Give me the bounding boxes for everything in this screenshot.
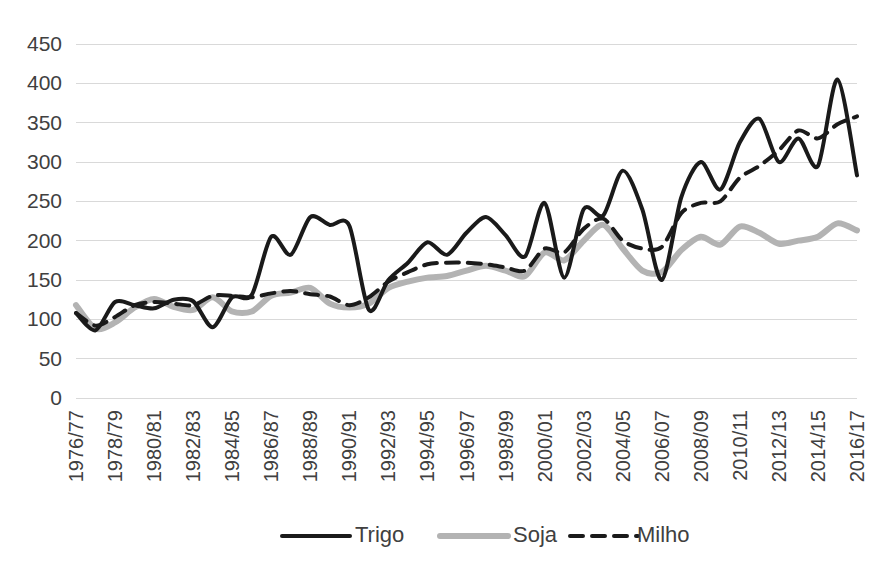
x-axis-tick-label: 2010/11 [729,410,751,481]
x-axis-tick-label: 2006/07 [651,410,673,482]
chart-canvas: 050100150200250300350400450 1976/771978/… [0,0,873,572]
y-axis-tick-label: 0 [50,386,62,409]
x-axis-tick-label: 2004/05 [612,410,634,482]
y-axis-tick-label: 200 [27,229,62,252]
x-axis-tick-label: 1976/77 [65,410,87,482]
legend-label-trigo[interactable]: Trigo [355,522,404,547]
y-axis-tick-label: 250 [27,189,62,212]
y-axis-tick-label: 400 [27,71,62,94]
series-line-milho [76,116,857,325]
x-axis-tick-label: 1996/97 [456,410,478,482]
y-axis-tick-labels: 050100150200250300350400450 [27,32,62,409]
x-axis-tick-label: 1990/91 [338,410,360,482]
x-axis-tick-label: 2014/15 [807,410,829,482]
series-line-soja [76,223,857,329]
x-axis-tick-label: 1986/87 [260,410,282,482]
legend-label-soja[interactable]: Soja [513,522,558,547]
x-axis-tick-label: 2002/03 [573,410,595,482]
x-axis-tick-label: 1998/99 [495,410,517,482]
y-axis-tick-label: 100 [27,307,62,330]
x-axis-tick-label: 2008/09 [690,410,712,482]
line-chart: 050100150200250300350400450 1976/771978/… [0,0,873,572]
x-axis-tick-label: 1992/93 [377,410,399,482]
x-axis-tick-label: 1984/85 [221,410,243,482]
x-axis-tick-label: 2000/01 [534,410,556,482]
gridlines-group [76,44,857,398]
chart-legend: TrigoSojaMilho [282,522,690,547]
x-axis-tick-label: 1978/79 [104,410,126,482]
x-axis-tick-label: 2016/17 [846,410,868,482]
y-axis-tick-label: 450 [27,32,62,55]
series-group [76,79,857,330]
legend-label-milho[interactable]: Milho [637,522,690,547]
x-axis-tick-label: 1982/83 [182,410,204,482]
x-axis-tick-labels: 1976/771978/791980/811982/831984/851986/… [65,410,868,482]
y-axis-tick-label: 150 [27,268,62,291]
y-axis-tick-label: 300 [27,150,62,173]
x-axis-tick-label: 2012/13 [768,410,790,482]
series-line-trigo [76,79,857,330]
y-axis-tick-label: 350 [27,111,62,134]
x-axis-tick-label: 1988/89 [299,410,321,482]
x-axis-tick-label: 1980/81 [143,410,165,482]
y-axis-tick-label: 50 [39,347,62,370]
x-axis-tick-label: 1994/95 [416,410,438,482]
